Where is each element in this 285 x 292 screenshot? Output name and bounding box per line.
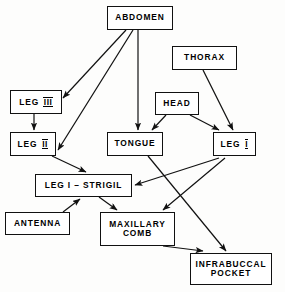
edge-maxillary-to-infra xyxy=(163,246,203,251)
node-antenna[interactable]: ANTENNA xyxy=(5,212,70,235)
roman-numeral: II xyxy=(42,139,49,149)
roman-numeral: III xyxy=(43,97,52,107)
node-label-tongue: TONGUE xyxy=(114,139,155,148)
node-label-antenna: ANTENNA xyxy=(14,219,61,228)
node-label-maxillary-comb: MAXILLARY COMB xyxy=(109,220,166,239)
node-leg-i[interactable]: LEG I xyxy=(213,132,256,156)
node-infrabuccal-pocket[interactable]: INFRABUCCAL POCKET xyxy=(190,253,272,285)
edge-head-to-leg1 xyxy=(190,115,219,130)
node-leg-i-strigil[interactable]: LEG I – STRIGIL xyxy=(35,174,132,197)
node-label-thorax: THORAX xyxy=(184,53,225,62)
edge-leg2-to-strigil xyxy=(52,156,86,172)
node-leg-iii[interactable]: LEG III xyxy=(10,90,62,114)
node-label-infrabuccal-pocket: INFRABUCCAL POCKET xyxy=(196,260,267,279)
roman-numeral: I xyxy=(245,139,249,149)
node-leg-ii[interactable]: LEG II xyxy=(10,132,56,156)
node-label-leg-iii: LEG III xyxy=(19,97,53,107)
node-label-leg-ii: LEG II xyxy=(18,139,49,149)
node-tongue[interactable]: TONGUE xyxy=(107,132,163,156)
edge-antenna-to-strigil xyxy=(63,199,80,212)
node-label-abdomen: ABDOMEN xyxy=(115,13,165,22)
edge-thorax-to-leg1 xyxy=(203,70,233,130)
node-label-head: HEAD xyxy=(163,99,190,108)
edge-leg1-to-strigil xyxy=(135,158,219,185)
edge-strigil-to-maxillary xyxy=(99,197,117,210)
edge-head-to-tongue xyxy=(152,115,166,130)
node-maxillary-comb[interactable]: MAXILLARY COMB xyxy=(100,212,175,246)
node-thorax[interactable]: THORAX xyxy=(172,46,237,70)
diagram-canvas: ABDOMEN THORAX LEG III HEAD LEG II TONGU… xyxy=(0,0,285,292)
node-label-leg-i: LEG I xyxy=(221,139,249,149)
node-label-leg-i-strigil: LEG I – STRIGIL xyxy=(45,181,123,190)
node-head[interactable]: HEAD xyxy=(155,92,199,115)
node-abdomen[interactable]: ABDOMEN xyxy=(107,6,173,30)
edge-abdomen-to-leg3 xyxy=(63,30,126,98)
